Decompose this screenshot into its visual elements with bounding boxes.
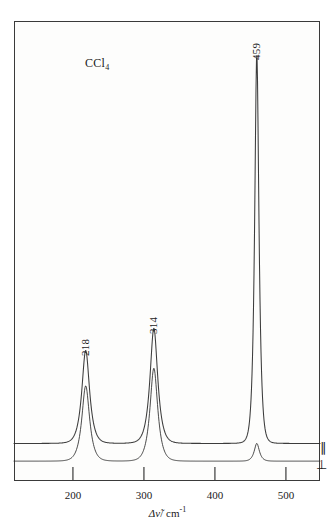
x-tick-label-500: 500 xyxy=(266,489,306,501)
peak-label-459: 459 xyxy=(250,42,262,59)
peak-label-218: 218 xyxy=(79,339,91,356)
sample-formula-base: CCl xyxy=(85,56,105,70)
polarization-perpendicular-label: ⊥ xyxy=(316,458,327,471)
x-axis-title: Δν̃/ cm-1 xyxy=(0,505,335,519)
raman-spectrum-figure: CCl4 218 314 459 200 300 400 500 Δν̃/ cm… xyxy=(0,0,335,531)
sample-formula-label: CCl4 xyxy=(85,56,110,72)
plot-frame xyxy=(14,21,320,481)
x-tick-label-400: 400 xyxy=(195,489,235,501)
polarization-parallel-label: ∥ xyxy=(320,441,327,454)
sample-formula-subscript: 4 xyxy=(105,63,109,72)
x-tick-label-300: 300 xyxy=(124,489,164,501)
peak-label-314: 314 xyxy=(147,317,159,334)
x-axis-unit: / cm xyxy=(160,507,179,519)
x-tick-label-200: 200 xyxy=(53,489,93,501)
x-axis-exponent: -1 xyxy=(179,505,186,514)
